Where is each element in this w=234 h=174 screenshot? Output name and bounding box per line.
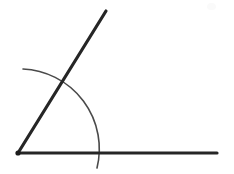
upper-ray xyxy=(18,11,106,153)
vertex-point xyxy=(15,150,20,155)
angle-diagram-svg xyxy=(0,0,234,174)
angle-diagram-canvas xyxy=(0,0,234,174)
